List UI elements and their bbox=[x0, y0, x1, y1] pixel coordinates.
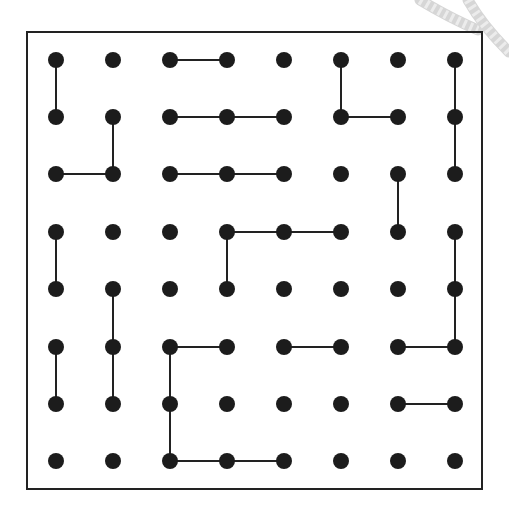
grid-dot bbox=[390, 281, 406, 297]
grid-dot bbox=[162, 224, 178, 240]
grid-dot bbox=[390, 453, 406, 469]
grid-dot bbox=[48, 396, 64, 412]
rope-icon bbox=[420, 0, 509, 52]
grid-dot bbox=[447, 109, 463, 125]
grid-dot bbox=[447, 52, 463, 68]
grid-dot bbox=[219, 52, 235, 68]
grid-dot bbox=[333, 224, 349, 240]
grid-dot bbox=[219, 453, 235, 469]
grid-dot bbox=[390, 396, 406, 412]
grid-dot bbox=[333, 166, 349, 182]
grid-dot bbox=[447, 396, 463, 412]
grid-dot bbox=[105, 224, 121, 240]
grid-dot bbox=[333, 281, 349, 297]
grid-dot bbox=[276, 339, 292, 355]
grid-dot bbox=[162, 396, 178, 412]
grid-dot bbox=[390, 339, 406, 355]
grid-dot bbox=[447, 224, 463, 240]
grid-dot bbox=[276, 52, 292, 68]
grid-dot bbox=[390, 109, 406, 125]
grid-dot bbox=[105, 166, 121, 182]
grid-dot bbox=[219, 339, 235, 355]
grid-dot bbox=[390, 224, 406, 240]
grid-dot bbox=[276, 109, 292, 125]
grid-dot bbox=[333, 339, 349, 355]
grid-dot bbox=[48, 109, 64, 125]
grid-frame bbox=[27, 32, 482, 489]
grid-dot bbox=[105, 339, 121, 355]
grid-dot bbox=[162, 109, 178, 125]
grid-dot bbox=[447, 339, 463, 355]
grid-dot bbox=[333, 109, 349, 125]
grid-dot bbox=[48, 224, 64, 240]
grid-dot bbox=[162, 339, 178, 355]
grid-dot bbox=[105, 396, 121, 412]
grid-dot bbox=[276, 453, 292, 469]
grid-dot bbox=[333, 453, 349, 469]
grid-dot bbox=[48, 281, 64, 297]
grid-dot bbox=[48, 453, 64, 469]
grid-dot bbox=[219, 281, 235, 297]
dot-layer bbox=[48, 52, 463, 469]
grid-dot bbox=[333, 52, 349, 68]
grid-dot bbox=[162, 453, 178, 469]
grid-dot bbox=[390, 166, 406, 182]
grid-dot bbox=[162, 281, 178, 297]
grid-dot bbox=[162, 52, 178, 68]
grid-dot bbox=[447, 453, 463, 469]
grid-dot bbox=[333, 396, 349, 412]
grid-dot bbox=[162, 166, 178, 182]
grid-dot bbox=[219, 109, 235, 125]
grid-dot bbox=[219, 224, 235, 240]
grid-dot bbox=[447, 281, 463, 297]
grid-dot bbox=[105, 52, 121, 68]
grid-dot bbox=[48, 166, 64, 182]
grid-dot bbox=[105, 281, 121, 297]
grid-dot bbox=[105, 109, 121, 125]
dot-grid-diagram bbox=[0, 0, 509, 519]
grid-dot bbox=[276, 166, 292, 182]
grid-dot bbox=[105, 453, 121, 469]
grid-dot bbox=[276, 224, 292, 240]
grid-dot bbox=[390, 52, 406, 68]
grid-dot bbox=[276, 281, 292, 297]
grid-dot bbox=[219, 166, 235, 182]
grid-dot bbox=[276, 396, 292, 412]
grid-dot bbox=[219, 396, 235, 412]
grid-dot bbox=[48, 339, 64, 355]
grid-dot bbox=[48, 52, 64, 68]
grid-dot bbox=[447, 166, 463, 182]
